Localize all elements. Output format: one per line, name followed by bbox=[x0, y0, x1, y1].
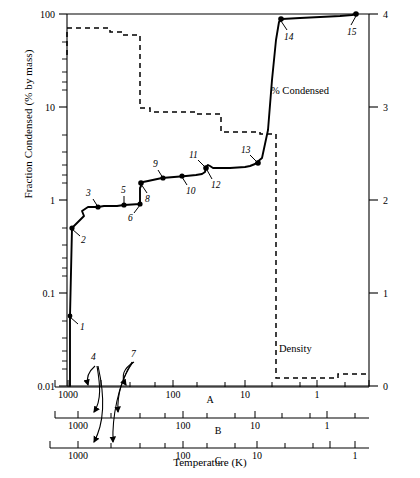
x-axis-a-name: A bbox=[206, 394, 214, 405]
data-point-1 bbox=[68, 314, 73, 319]
annotation-arrows-4 bbox=[87, 366, 103, 442]
y-tick-label: 0.01 bbox=[38, 381, 56, 392]
point-label-13: 13 bbox=[241, 145, 251, 155]
x-axis-b-name: B bbox=[215, 425, 222, 436]
point-label-10: 10 bbox=[186, 186, 196, 196]
y-axis-right-tick-labels: 4 3 2 1 0 bbox=[383, 9, 388, 392]
x-axis-a-tick-label: 100 bbox=[166, 389, 181, 400]
y-axis-right-ticks bbox=[369, 14, 378, 386]
point-label-2: 2 bbox=[81, 235, 86, 245]
point-label-6: 6 bbox=[128, 213, 133, 223]
x-axis-a-tick-label: 1000 bbox=[58, 389, 78, 400]
x-axis-label: Temperature (K) bbox=[0, 456, 420, 468]
plot-frame bbox=[67, 14, 369, 386]
point-label-9: 9 bbox=[153, 159, 158, 169]
point-number-labels: 1 2 3 5 6 8 9 10 11 12 13 14 15 bbox=[80, 27, 357, 332]
x-axis-a-tick-label: 10 bbox=[240, 389, 250, 400]
y2-tick-label: 0 bbox=[383, 381, 388, 392]
data-point-15 bbox=[353, 11, 359, 17]
series-label-density: Density bbox=[279, 343, 312, 354]
y-tick-label: 100 bbox=[40, 9, 55, 20]
arrow-7-to-axis-c bbox=[113, 362, 132, 442]
x-axis-b-tick-label: 1000 bbox=[68, 420, 88, 431]
point-label-15: 15 bbox=[347, 27, 357, 37]
annotation-arrows-7 bbox=[113, 362, 134, 442]
arrow-4-to-axis-a bbox=[87, 366, 95, 385]
data-point-2 bbox=[69, 225, 74, 230]
data-point-14 bbox=[278, 16, 284, 22]
point-label-1: 1 bbox=[80, 322, 85, 332]
condensed-curve bbox=[70, 14, 356, 386]
point-label-11: 11 bbox=[189, 150, 198, 160]
y2-tick-label: 1 bbox=[383, 288, 388, 299]
data-point-8 bbox=[138, 180, 144, 186]
y-tick-label: 0.1 bbox=[43, 288, 56, 299]
x-axis-b-tick-label: 1 bbox=[325, 420, 330, 431]
y2-tick-label: 4 bbox=[383, 9, 388, 20]
y-axis-left-ticks bbox=[59, 14, 67, 386]
series-label-condensed: % Condensed bbox=[271, 85, 330, 96]
point-label-5: 5 bbox=[121, 185, 126, 195]
density-curve bbox=[67, 28, 369, 378]
point-label-8: 8 bbox=[145, 194, 150, 204]
y-tick-label: 1 bbox=[50, 195, 55, 206]
annotation-label-7: 7 bbox=[131, 349, 137, 359]
arrow-7-to-axis-a bbox=[123, 362, 134, 385]
figure-container: Fraction Condensed (% by mass) Cumulativ… bbox=[0, 0, 420, 478]
y2-tick-label: 2 bbox=[383, 195, 388, 206]
y2-tick-label: 3 bbox=[383, 102, 388, 113]
x-axis-b-tick-label: 100 bbox=[176, 420, 191, 431]
point-label-12: 12 bbox=[211, 180, 221, 190]
y-axis-left-label: Fraction Condensed (% by mass) bbox=[22, 44, 34, 204]
condensed-data-points bbox=[68, 11, 359, 318]
point-label-3: 3 bbox=[85, 188, 91, 198]
arrow-4-to-axis-b bbox=[94, 366, 100, 412]
annotation-label-4: 4 bbox=[91, 352, 96, 362]
point-label-14: 14 bbox=[284, 32, 294, 42]
x-axis-b-tick-label: 10 bbox=[250, 420, 260, 431]
y-axis-left-tick-labels: 100 10 1 0.1 0.01 bbox=[38, 9, 56, 392]
x-axis-a-tick-label: 1 bbox=[315, 389, 320, 400]
y-tick-label: 10 bbox=[45, 102, 55, 113]
point-leader-lines bbox=[70, 16, 356, 324]
chart-svg: 100 10 1 0.1 0.01 4 3 2 1 0 bbox=[0, 0, 420, 478]
